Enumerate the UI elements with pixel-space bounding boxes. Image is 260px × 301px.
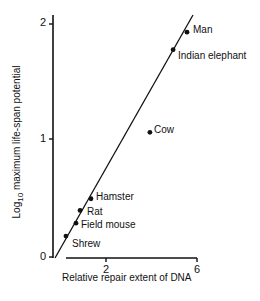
y-axis-label-prefix: Log: [11, 202, 22, 219]
y-axis-label: Log10 maximum life-span potential: [11, 62, 25, 222]
data-point: [64, 234, 69, 239]
y-tick-label-2: 2: [40, 16, 46, 28]
x-axis-label: Relative repair extent of DNA: [62, 272, 192, 283]
scatter-chart: [0, 0, 260, 301]
data-point: [171, 47, 176, 52]
point-label-rat: Rat: [87, 206, 103, 217]
data-point: [78, 208, 83, 213]
y-axis-label-subscript: 10: [16, 193, 25, 202]
point-label-hamster: Hamster: [96, 191, 134, 202]
data-point: [185, 30, 190, 35]
x-tick-label-6: 6: [194, 263, 200, 275]
point-label-man: Man: [193, 24, 212, 35]
point-label-indian-elephant: Indian elephant: [178, 50, 246, 61]
y-tick-label-0: 0: [40, 250, 46, 262]
data-point: [148, 130, 153, 135]
point-label-cow: Cow: [154, 124, 174, 135]
point-label-field-mouse: Field mouse: [81, 219, 135, 230]
data-point: [74, 221, 79, 226]
point-label-shrew: Shrew: [72, 238, 100, 249]
y-axis-label-rest: maximum life-span potential: [11, 66, 22, 193]
y-tick-label-1: 1: [40, 132, 46, 144]
data-point: [89, 196, 94, 201]
